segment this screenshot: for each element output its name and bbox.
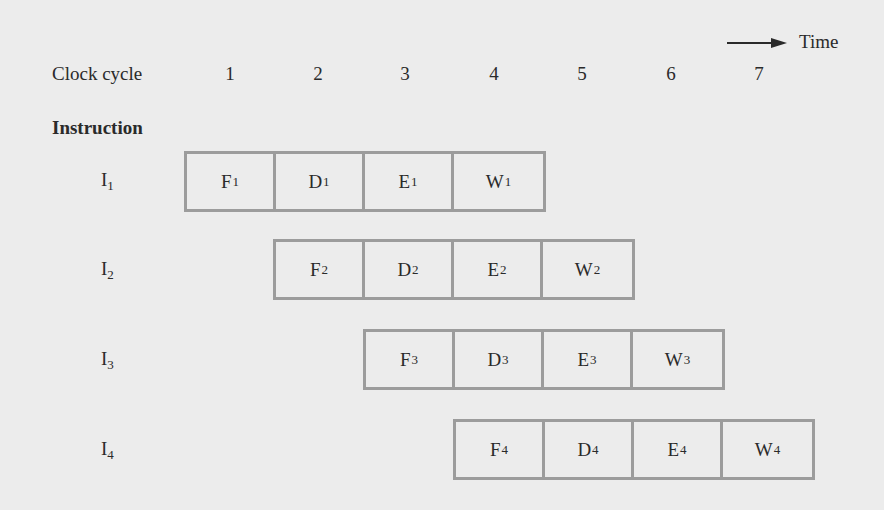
instruction-label-3: I3 bbox=[101, 348, 114, 373]
pipeline-row-4: F4 D4 E4 W4 bbox=[453, 419, 815, 480]
stage-execute: E4 bbox=[634, 422, 723, 477]
stage-fetch: F3 bbox=[366, 332, 455, 387]
cycle-number-4: 4 bbox=[484, 63, 504, 85]
cycle-number-3: 3 bbox=[395, 63, 415, 85]
instruction-header: Instruction bbox=[52, 117, 143, 139]
time-label: Time bbox=[799, 31, 838, 53]
cycle-number-5: 5 bbox=[572, 63, 592, 85]
stage-write: W4 bbox=[723, 422, 812, 477]
stage-fetch: F1 bbox=[187, 154, 276, 209]
stage-execute: E3 bbox=[544, 332, 633, 387]
instruction-label-4: I4 bbox=[101, 438, 114, 463]
stage-decode: D2 bbox=[365, 242, 454, 297]
instruction-label-1: I1 bbox=[101, 169, 114, 194]
stage-decode: D1 bbox=[276, 154, 365, 209]
right-arrow-icon bbox=[727, 37, 787, 49]
cycle-number-7: 7 bbox=[749, 63, 769, 85]
stage-fetch: F4 bbox=[456, 422, 545, 477]
pipeline-row-2: F2 D2 E2 W2 bbox=[273, 239, 635, 300]
stage-decode: D4 bbox=[545, 422, 634, 477]
stage-write: W1 bbox=[454, 154, 543, 209]
stage-write: W3 bbox=[633, 332, 722, 387]
stage-decode: D3 bbox=[455, 332, 544, 387]
instruction-label-2: I2 bbox=[101, 258, 114, 283]
clock-cycle-label: Clock cycle bbox=[52, 63, 142, 85]
stage-execute: E2 bbox=[454, 242, 543, 297]
pipeline-row-1: F1 D1 E1 W1 bbox=[184, 151, 546, 212]
cycle-number-2: 2 bbox=[308, 63, 328, 85]
stage-write: W2 bbox=[543, 242, 632, 297]
cycle-number-1: 1 bbox=[220, 63, 240, 85]
cycle-number-6: 6 bbox=[661, 63, 681, 85]
pipeline-row-3: F3 D3 E3 W3 bbox=[363, 329, 725, 390]
stage-execute: E1 bbox=[365, 154, 454, 209]
stage-fetch: F2 bbox=[276, 242, 365, 297]
